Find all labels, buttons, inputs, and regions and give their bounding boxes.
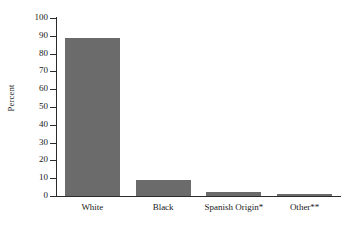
y-axis-tick <box>50 143 57 144</box>
y-axis-tick <box>50 18 57 19</box>
y-axis-tick-label: 50 <box>0 102 48 111</box>
y-axis-tick-label-text: 90 <box>4 31 48 40</box>
x-axis-label: Black <box>128 202 199 213</box>
y-axis-tick-label-text: 20 <box>4 155 48 164</box>
y-axis-tick-label-text: 60 <box>4 84 48 93</box>
bar-chart: Percent 0102030405060708090100 WhiteBlac… <box>0 0 346 230</box>
y-axis-tick-label-text: 50 <box>4 102 48 111</box>
y-axis-tick-label-text: 10 <box>4 173 48 182</box>
y-axis-tick <box>50 36 57 37</box>
bar-white <box>65 38 120 196</box>
y-axis-tick-label-text: 30 <box>4 138 48 147</box>
x-axis-line <box>56 196 341 197</box>
y-axis-tick-label-text: 70 <box>4 66 48 75</box>
y-axis-tick-label-text: 100 <box>4 13 48 22</box>
y-axis-tick <box>50 71 57 72</box>
y-axis-tick <box>50 89 57 90</box>
y-axis-tick-label: 30 <box>0 138 48 147</box>
y-axis-tick <box>50 107 57 108</box>
x-axis-label: Spanish Origin* <box>199 202 270 213</box>
y-axis-tick-label: 40 <box>0 120 48 129</box>
y-axis-tick-label-text: 0 <box>4 191 48 200</box>
bar-black <box>136 180 191 196</box>
y-axis-tick-label: 60 <box>0 84 48 93</box>
y-axis-tick-label: 100 <box>0 13 48 22</box>
y-axis-title: Percent <box>2 0 20 196</box>
y-axis-tick-label: 0 <box>0 191 48 200</box>
y-axis-tick-label-text: 80 <box>4 49 48 58</box>
y-axis-tick-label: 10 <box>0 173 48 182</box>
bar-spanish-origin <box>206 192 261 196</box>
y-axis-tick-label: 90 <box>0 31 48 40</box>
x-axis-label: White <box>57 202 128 213</box>
plot-area <box>57 18 340 196</box>
x-axis-label: Other** <box>269 202 340 213</box>
y-axis-tick <box>50 178 57 179</box>
y-axis-tick-label: 20 <box>0 155 48 164</box>
y-axis-tick <box>50 160 57 161</box>
y-axis-tick-label: 70 <box>0 66 48 75</box>
y-axis-tick <box>50 54 57 55</box>
bar-other <box>277 194 332 196</box>
y-axis-tick-label: 80 <box>0 49 48 58</box>
y-axis-tick <box>50 196 57 197</box>
y-axis-tick-label-text: 40 <box>4 120 48 129</box>
y-axis-tick <box>50 125 57 126</box>
